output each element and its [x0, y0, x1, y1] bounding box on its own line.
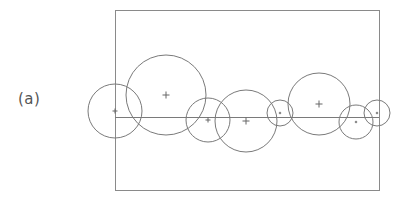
center-cross-icon	[316, 101, 323, 108]
circle-2	[126, 55, 206, 135]
circle-packing-diagram	[0, 0, 404, 223]
center-cross-icon	[113, 109, 118, 114]
circle-6	[288, 73, 350, 135]
circles-group	[88, 55, 390, 152]
center-cross-icon	[206, 118, 211, 123]
diagram-frame	[116, 11, 380, 191]
circle-8	[364, 100, 390, 126]
center-cross-icon	[376, 112, 378, 114]
center-cross-icon	[355, 121, 357, 123]
center-cross-icon	[163, 92, 170, 99]
circle-3	[186, 98, 230, 142]
center-cross-icon	[243, 118, 250, 125]
center-cross-icon	[279, 112, 281, 114]
circle-4	[215, 90, 277, 152]
